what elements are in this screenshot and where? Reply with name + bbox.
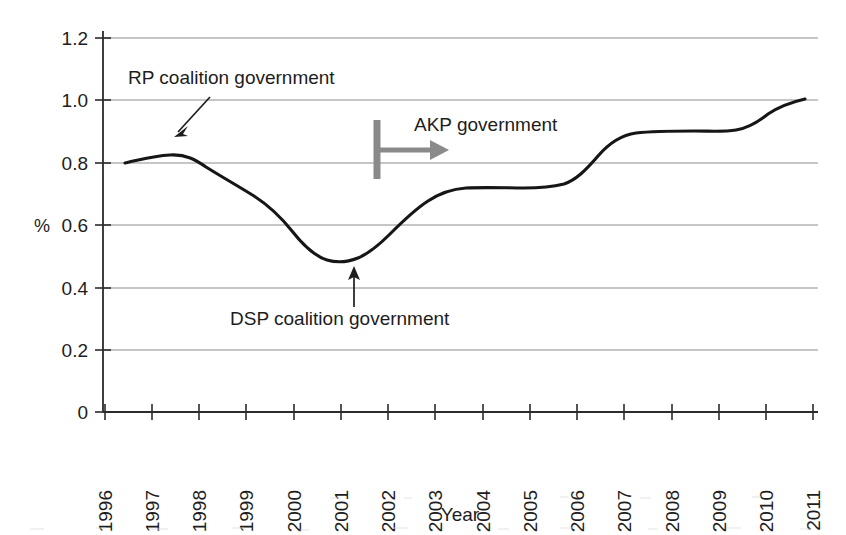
y-tick-label-0: 0 (77, 402, 88, 423)
x-tick-label-1997: 1997 (142, 490, 163, 532)
x-tick-label-2006: 2006 (567, 490, 588, 532)
x-tick-label-2002: 2002 (378, 490, 399, 532)
dsp-coalition-label: DSP coalition government (230, 308, 450, 329)
x-tick-label-2011: 2011 (803, 490, 824, 531)
x-tick-label-2000: 2000 (284, 490, 305, 532)
annotation-rp-coalition: RP coalition government (128, 67, 335, 137)
x-axis-title: Year (441, 504, 480, 525)
y-tick-label-0.6: 0.6 (62, 215, 88, 236)
akp-government-label: AKP government (414, 114, 558, 135)
y-tick-label-0.2: 0.2 (62, 340, 88, 361)
chart-figure: 1.2 1.0 0.8 0.6 0.4 0.2 0 % (0, 0, 846, 535)
x-tick-label-1996: 1996 (95, 490, 116, 532)
x-tick-label-1998: 1998 (189, 490, 210, 532)
x-tick-label-2001: 2001 (331, 490, 352, 532)
y-tick-labels: 1.2 1.0 0.8 0.6 0.4 0.2 0 (62, 28, 89, 423)
y-tick-label-0.4: 0.4 (62, 278, 89, 299)
x-tick-label-2008: 2008 (662, 490, 683, 532)
y-tick-label-1.2: 1.2 (62, 28, 88, 49)
x-tick-label-2009: 2009 (709, 490, 730, 532)
annotation-dsp-coalition: DSP coalition government (230, 266, 450, 329)
x-tick-label-1999: 1999 (236, 490, 257, 532)
x-tick-label-2005: 2005 (520, 490, 541, 532)
x-tick-label-2007: 2007 (614, 490, 635, 532)
y-tick-label-0.8: 0.8 (62, 153, 88, 174)
rp-coalition-arrow-shaft (178, 97, 210, 132)
y-axis-title: % (34, 216, 50, 236)
y-tick-label-1.0: 1.0 (62, 90, 88, 111)
line-chart: 1.2 1.0 0.8 0.6 0.4 0.2 0 % (0, 0, 846, 535)
akp-marker-arrowhead (430, 140, 449, 160)
rp-coalition-label: RP coalition government (128, 67, 335, 88)
